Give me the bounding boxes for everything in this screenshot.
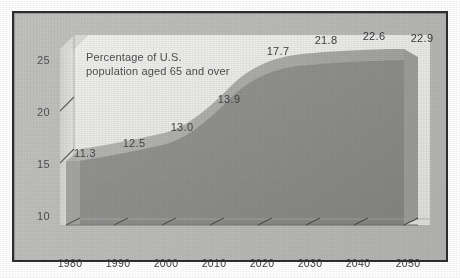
chart-title-line-2: population aged 65 and over [86, 65, 296, 79]
area-side-face [404, 49, 418, 225]
x-tick-label-2050: 2050 [386, 257, 430, 269]
x-tick-label-2000: 2000 [144, 257, 188, 269]
x-tick-label-1980: 1980 [48, 257, 92, 269]
figure-page: Percentage of U.S. population aged 65 an… [0, 0, 460, 278]
area-left-cap [66, 161, 80, 225]
x-tick-label-2010: 2010 [192, 257, 236, 269]
x-tick-label-2030: 2030 [288, 257, 332, 269]
chart-figure-frame: Percentage of U.S. population aged 65 an… [12, 11, 448, 262]
data-label-2040: 22.6 [357, 30, 391, 42]
y-tick-label-15: 15 [26, 158, 50, 170]
data-label-2010: 13.9 [212, 93, 246, 105]
data-label-1980: 11.3 [68, 147, 102, 159]
data-label-2050: 22.9 [405, 32, 439, 44]
x-tick-label-1990: 1990 [96, 257, 140, 269]
x-tick-label-2020: 2020 [240, 257, 284, 269]
y-tick-label-10: 10 [26, 210, 50, 222]
y-tick-label-20: 20 [26, 106, 50, 118]
data-label-2030: 21.8 [309, 34, 343, 46]
x-tick-label-2040: 2040 [336, 257, 380, 269]
plot-area: Percentage of U.S. population aged 65 an… [60, 33, 430, 223]
data-label-2020: 17.7 [261, 45, 295, 57]
data-label-2000: 13.0 [165, 121, 199, 133]
data-label-1990: 12.5 [117, 137, 151, 149]
y-tick-label-25: 25 [26, 54, 50, 66]
